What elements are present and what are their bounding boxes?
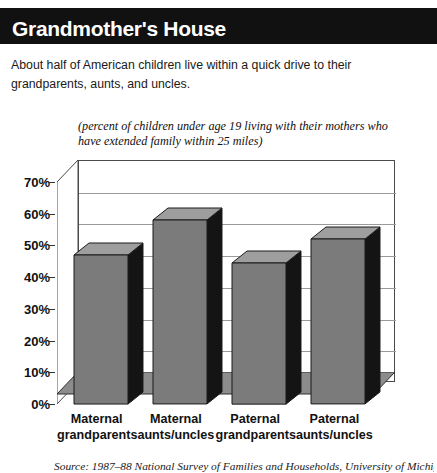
bar-prism [153,208,222,404]
bar-front-face [153,220,207,404]
bar-series [57,150,402,410]
chart-subtitle: (percent of children under age 19 living… [78,119,408,148]
bar [311,227,365,404]
y-axis-tick-mark [48,214,55,215]
bar-front-face [311,239,365,404]
y-axis: 0%10%20%30%40%50%60%70% [0,150,50,410]
x-axis-label-line: aunts/uncles [136,428,215,444]
x-axis-label-line: Paternal [216,412,295,428]
x-axis-label-line: grandparents [216,428,295,444]
bar [232,251,286,404]
y-axis-tick-mark [48,245,55,246]
y-axis-tick-label: 70% [4,176,50,189]
y-axis-tick-mark [48,277,55,278]
x-axis-label-line: grandparents [57,428,136,444]
y-axis-tick-label: 60% [4,208,50,221]
y-axis-tick-label: 50% [4,239,50,252]
bar-side-face [286,251,301,404]
y-axis-tick-label: 10% [4,366,50,379]
y-axis-tick-label: 30% [4,303,50,316]
y-axis-tick-mark [48,404,55,405]
bar-chart: 0%10%20%30%40%50%60%70% Maternalgrandpar… [0,150,437,450]
y-axis-tick-mark [48,309,55,310]
y-axis-tick-mark [48,341,55,342]
bar-side-face [365,227,380,404]
header-bar: Grandmother's House [0,8,437,44]
bar-prism [74,243,143,404]
y-axis-tick-mark [48,182,55,183]
y-axis-tick-label: 20% [4,335,50,348]
page-title: Grandmother's House [12,17,226,41]
bar-prism [311,227,380,404]
bar-front-face [74,255,128,404]
bar-side-face [207,208,222,404]
x-axis-label-line: Paternal [295,412,374,428]
bar [153,208,207,404]
y-axis-tick-label: 0% [4,398,50,411]
x-axis-label: Maternalaunts/uncles [136,412,215,443]
bar-front-face [232,263,286,404]
intro-text: About half of American children live wit… [11,56,411,94]
x-axis-labels: MaternalgrandparentsMaternalaunts/uncles… [57,412,402,452]
bar-prism [232,251,301,404]
x-axis-label: Paternalgrandparents [216,412,295,443]
x-axis-label-line: aunts/uncles [295,428,374,444]
y-axis-tick-label: 40% [4,271,50,284]
bar-side-face [128,243,143,404]
plot-area [57,150,402,410]
x-axis-label-line: Maternal [57,412,136,428]
x-axis-label: Paternalaunts/uncles [295,412,374,443]
source-note: Source: 1987–88 National Survey of Famil… [54,460,434,473]
bar [74,243,128,404]
x-axis-label: Maternalgrandparents [57,412,136,443]
y-axis-tick-mark [48,372,55,373]
x-axis-label-line: Maternal [136,412,215,428]
